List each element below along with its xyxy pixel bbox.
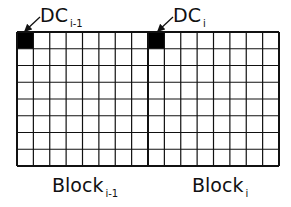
dc-prev-cell: [17, 32, 33, 49]
dc-curr-label: DCi: [173, 4, 206, 29]
block-prev-label: Blocki-1: [52, 174, 118, 199]
dc-prev-label: DCi-1: [40, 4, 83, 29]
arrow-icon: [158, 17, 173, 31]
dc-curr-cell: [148, 32, 164, 49]
arrow-icon: [25, 17, 40, 31]
block-curr-label: Blocki: [192, 174, 248, 199]
